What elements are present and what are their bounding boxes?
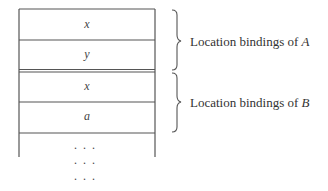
- brace-group-b: [172, 73, 181, 132]
- cell-label: x: [19, 17, 155, 32]
- group-label-prefix: Location bindings of: [190, 95, 302, 110]
- group-label-prefix: Location bindings of: [190, 34, 302, 49]
- group-label-name: B: [302, 95, 310, 110]
- continuation-dots: · · ·: [70, 143, 100, 153]
- group-label-a: Location bindings of A: [190, 34, 310, 50]
- continuation-dots: · · ·: [70, 174, 100, 184]
- cell-label: x: [19, 79, 155, 94]
- group-label-b: Location bindings of B: [190, 95, 310, 111]
- cell-label: a: [19, 109, 155, 124]
- continuation-dots: · · ·: [70, 158, 100, 168]
- brace-group-a: [172, 10, 181, 70]
- group-label-name: A: [302, 34, 310, 49]
- cell-label: y: [19, 47, 155, 62]
